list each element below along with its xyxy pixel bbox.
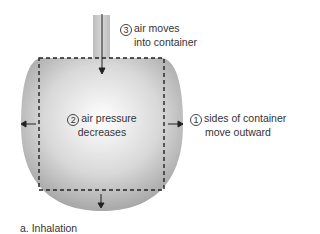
caption: a. Inhalation [20, 222, 77, 234]
label-step1: 1sides of container move outward [190, 112, 286, 138]
label-step3: 3air moves into container [120, 22, 197, 48]
label-step2: 2air pressure decreases [65, 112, 139, 138]
